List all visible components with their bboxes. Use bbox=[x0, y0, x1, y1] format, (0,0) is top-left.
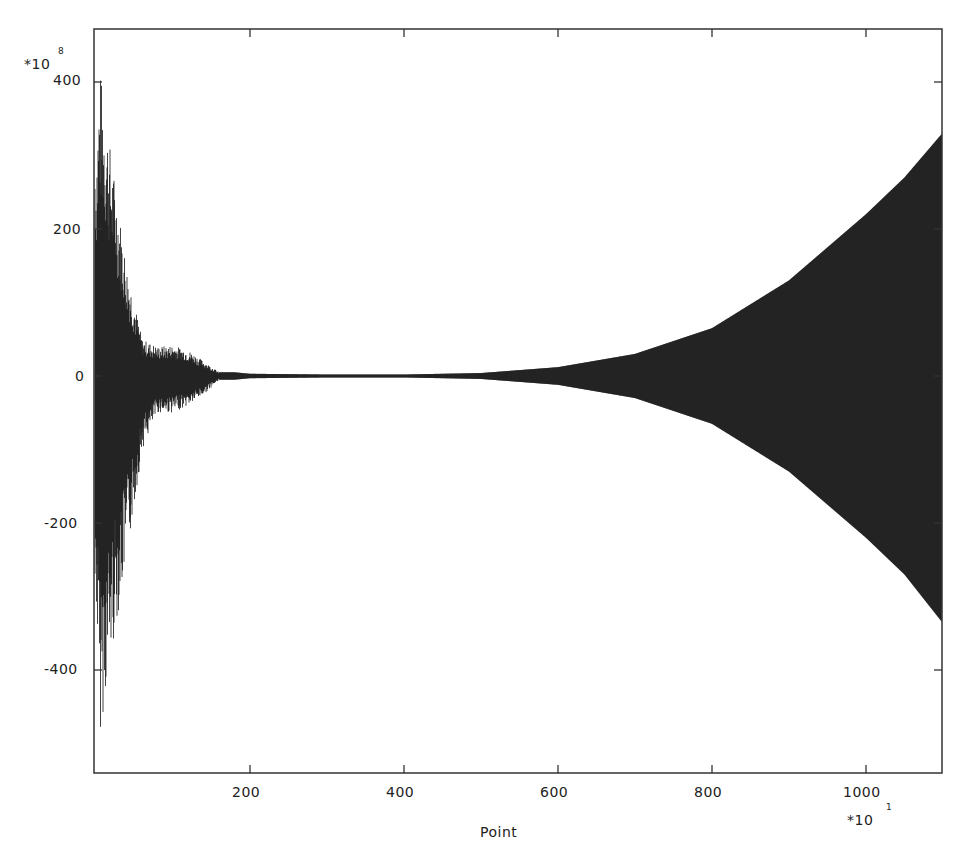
x-axis-label: Point bbox=[480, 824, 517, 840]
x-tick-label: 200 bbox=[232, 784, 260, 800]
y-tick-label: -400 bbox=[44, 661, 78, 677]
x-tick-label: 800 bbox=[694, 784, 722, 800]
x-tick-label: 600 bbox=[540, 784, 568, 800]
x-multiplier-exponent: 1 bbox=[886, 802, 892, 812]
y-tick-label: 200 bbox=[53, 221, 81, 237]
y-multiplier-exponent: 8 bbox=[58, 46, 64, 56]
x-tick-label: 400 bbox=[386, 784, 414, 800]
y-tick-label: 0 bbox=[75, 368, 84, 384]
x-tick-label: 1000 bbox=[843, 784, 881, 800]
plot-area bbox=[0, 0, 965, 863]
y-tick-label: 400 bbox=[53, 72, 81, 88]
waveform-series bbox=[95, 81, 942, 727]
y-tick-label: -200 bbox=[44, 515, 78, 531]
y-multiplier: *10 bbox=[24, 56, 50, 72]
x-multiplier: *10 bbox=[847, 812, 873, 828]
